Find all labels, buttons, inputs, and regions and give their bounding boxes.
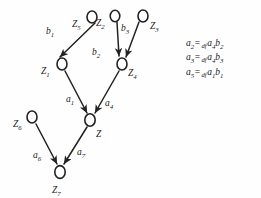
graph-edges (36, 22, 139, 164)
node-label-Z7: Z7 (52, 186, 61, 198)
edge-label-a4: a4 (105, 99, 113, 111)
equation-list: a2=dfa4b2 a3=dfa4b3 a5=dfa1b1 (186, 38, 261, 81)
node-label-Z3: Z3 (150, 22, 159, 34)
figure-canvas: Z5 Z2 Z3 Z1 Z4 Z Z6 Z7 b1 b2 b3 a1 a4 a6… (0, 0, 261, 198)
node-Z3 (138, 10, 148, 22)
node-label-Z4: Z4 (128, 69, 137, 81)
directed-graph (0, 0, 261, 198)
equation-a5: a5=dfa1b1 (186, 67, 261, 81)
edge-label-a7: a7 (77, 148, 85, 160)
edge-label-b1: b1 (46, 27, 54, 39)
node-Z6 (27, 111, 37, 123)
node-Z (85, 114, 95, 126)
edge-a1 (65, 71, 87, 113)
node-label-Z2: Z2 (96, 19, 105, 31)
node-Z2 (110, 10, 120, 22)
node-Z4 (117, 58, 127, 70)
node-label-Z1: Z1 (41, 67, 50, 79)
equation-a2: a2=dfa4b2 (186, 38, 261, 52)
edge-label-b2: b2 (92, 48, 100, 60)
node-label-Z6: Z6 (13, 120, 22, 132)
node-label-Z5: Z5 (72, 20, 81, 32)
edge-label-a6: a6 (33, 151, 41, 163)
edge-label-a1: a1 (66, 95, 74, 107)
equation-a3: a3=dfa4b3 (186, 52, 261, 66)
edge-b2 (117, 22, 119, 56)
node-label-Z: Z (96, 130, 101, 142)
node-Z1 (57, 58, 67, 70)
node-Z7 (55, 166, 65, 179)
edge-label-b3: b3 (121, 24, 129, 36)
